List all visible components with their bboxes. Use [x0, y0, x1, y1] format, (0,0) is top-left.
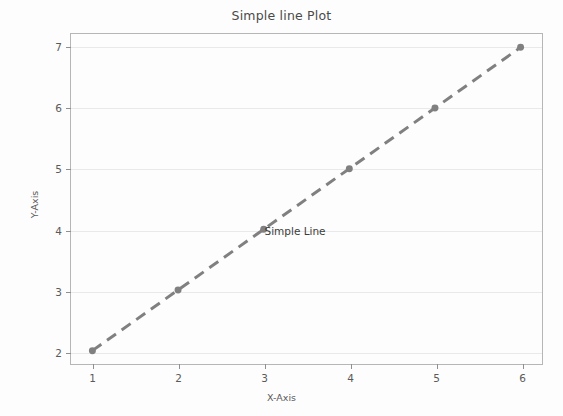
- y-tick-label: 6: [55, 102, 62, 114]
- y-tick-label: 5: [55, 163, 62, 175]
- line-series-layer: [71, 34, 542, 364]
- x-tick-mark: [523, 364, 524, 369]
- plot-area: 234567 123456 Simple Line: [70, 33, 543, 365]
- x-tick-label: 4: [347, 372, 354, 384]
- y-tick-label: 3: [55, 286, 62, 298]
- x-tick-label: 6: [519, 372, 526, 384]
- data-point-marker: [431, 105, 438, 112]
- x-tick-mark: [265, 364, 266, 369]
- series-line: [92, 47, 520, 350]
- data-point-marker: [175, 287, 182, 294]
- y-tick-label: 7: [55, 41, 62, 53]
- x-tick-label: 2: [175, 372, 182, 384]
- x-tick-mark: [351, 364, 352, 369]
- x-tick-label: 1: [89, 372, 96, 384]
- x-tick-mark: [93, 364, 94, 369]
- x-tick-mark: [437, 364, 438, 369]
- y-tick-label: 2: [55, 347, 62, 359]
- x-tick-label: 3: [261, 372, 268, 384]
- x-axis-label: X-Axis: [0, 392, 563, 403]
- data-point-marker: [346, 165, 353, 172]
- chart-title: Simple line Plot: [0, 8, 563, 23]
- y-tick-label: 4: [55, 225, 62, 237]
- x-tick-label: 5: [433, 372, 440, 384]
- data-point-marker: [517, 44, 524, 51]
- y-axis-label: Y-Axis: [29, 191, 40, 219]
- data-point-marker: [89, 347, 96, 354]
- chart-figure: Simple line Plot 234567 123456 Simple Li…: [0, 0, 563, 416]
- x-tick-mark: [179, 364, 180, 369]
- series-annotation-label: Simple Line: [265, 225, 326, 237]
